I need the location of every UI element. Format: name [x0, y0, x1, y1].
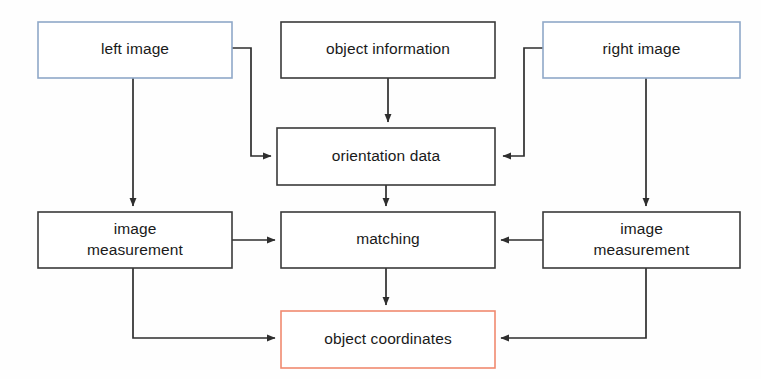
- node-image-measurement-left[interactable]: imagemeasurement: [38, 212, 232, 268]
- node-label-image-measurement-right: measurement: [594, 241, 690, 258]
- flowchart-diagram: left imageobject informationright imageo…: [0, 0, 761, 379]
- edge-image-measurement-left-to-object-coordinates: [133, 268, 275, 338]
- edge-right-image-to-orientation-data: [503, 48, 543, 156]
- node-right-image[interactable]: right image: [543, 22, 740, 78]
- node-label-image-measurement-left: image: [114, 220, 157, 237]
- node-label-left-image: left image: [101, 40, 169, 57]
- node-label-right-image: right image: [603, 40, 681, 57]
- node-matching[interactable]: matching: [281, 212, 495, 268]
- node-label-object-information: object information: [326, 40, 450, 57]
- node-label-object-coordinates: object coordinates: [324, 330, 452, 347]
- node-label-orientation-data: orientation data: [332, 147, 441, 164]
- nodes-layer: left imageobject informationright imageo…: [38, 22, 740, 368]
- edges-layer: [133, 48, 646, 338]
- node-object-coordinates[interactable]: object coordinates: [281, 311, 495, 368]
- node-left-image[interactable]: left image: [38, 22, 232, 78]
- flowchart-canvas: left imageobject informationright imageo…: [0, 0, 761, 379]
- node-orientation-data[interactable]: orientation data: [277, 128, 495, 185]
- edge-left-image-to-orientation-data: [232, 48, 271, 156]
- node-image-measurement-right[interactable]: imagemeasurement: [543, 212, 740, 268]
- node-label-image-measurement-left: measurement: [87, 241, 183, 258]
- edge-image-measurement-right-to-object-coordinates: [501, 268, 646, 338]
- node-label-matching: matching: [356, 230, 420, 247]
- node-label-image-measurement-right: image: [620, 220, 663, 237]
- node-object-information[interactable]: object information: [281, 22, 495, 78]
